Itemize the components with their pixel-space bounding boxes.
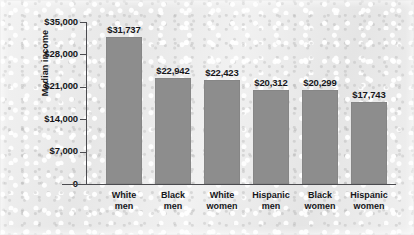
y-axis-line [86,22,87,184]
bar [204,80,240,184]
x-axis-line [62,184,396,185]
bar [253,90,289,184]
y-axis-tick-label: $28,000 [22,48,78,59]
y-axis-tick-label: 0 [22,178,78,189]
y-axis-tick-label: $7,000 [22,145,78,156]
x-axis-tick-label: Hispanicwomen [338,190,400,212]
bar-data-label: $31,737 [94,24,154,35]
bar-data-label: $20,299 [290,77,350,88]
bar [155,78,191,184]
chart-figure: Median income 0$7,000$14,000$21,000$28,0… [0,0,414,235]
y-axis-title: Median income [40,20,50,106]
plot-area: Median income 0$7,000$14,000$21,000$28,0… [0,0,414,235]
bar-data-label: $17,743 [339,89,399,100]
bar [351,102,387,184]
y-axis-tick-label: $14,000 [22,113,78,124]
bar [106,37,142,184]
y-axis-tick-label: $21,000 [22,80,78,91]
bar [302,90,338,184]
y-axis-tick-label: $35,000 [22,16,78,27]
